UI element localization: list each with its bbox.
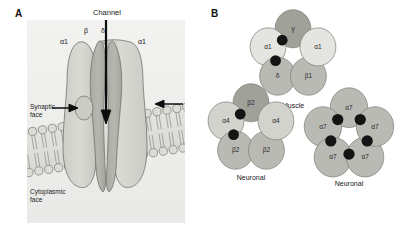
subunit-label: β1	[305, 72, 313, 80]
subunit-label: β2	[232, 146, 240, 154]
pentamer-neuronal-alpha4beta2: β2α4β2β2α4 Neuronal	[205, 84, 297, 176]
binding-site-dot	[270, 55, 281, 66]
pentamer-neuronal-alpha7: α7α7α7α7α7 Neuronal	[301, 88, 397, 184]
pentamer-caption-neuronal-alpha4beta2: Neuronal	[205, 174, 297, 181]
subunit-label-delta: δ	[101, 27, 105, 36]
binding-site-dot	[332, 114, 343, 125]
binding-site-dot	[235, 109, 246, 120]
subunit-label: α1	[264, 43, 272, 50]
binding-site-dot	[325, 135, 336, 146]
panel-a-letter: A	[15, 8, 22, 19]
subunit-label: β2	[247, 99, 255, 107]
subunit-label: α4	[272, 117, 280, 124]
subunit-label: α4	[222, 117, 230, 124]
panel-b-subunit-arrangements: γα1δβ1α1 Muscle β2α4β2β2α4 Neuronal α7α7…	[203, 6, 409, 228]
subunit-label: δ	[276, 72, 280, 79]
subunit-label: β2	[263, 146, 271, 154]
synaptic-face-label: Synaptic face	[30, 103, 55, 119]
subunit-neuronal-a4b2-4: α4	[258, 102, 294, 140]
cytoplasmic-face-label: Cytoplasmic face	[30, 188, 65, 204]
subunit-label: α7	[361, 153, 369, 160]
binding-site-dot	[362, 135, 373, 146]
channel-label: Channel	[77, 8, 137, 17]
subunit-label-alpha1-left: α1	[60, 38, 68, 47]
panel-a-receptor-cross-section: Channel β δ α1 α1 Synaptic face Cytoplas…	[27, 20, 185, 223]
binding-site-dot	[355, 114, 366, 125]
pentamer-caption-neuronal-alpha7: Neuronal	[301, 180, 397, 187]
subunit-label: α7	[319, 123, 327, 130]
binding-site-dot	[343, 149, 354, 160]
binding-site-dot	[228, 129, 239, 140]
subunit-label: α7	[345, 104, 353, 111]
subunit-label-alpha1-right: α1	[138, 38, 146, 47]
subunit-label-beta: β	[84, 27, 88, 36]
subunit-label: α7	[329, 153, 337, 160]
binding-site-dot	[277, 35, 288, 46]
figure-root: A	[0, 0, 409, 231]
subunit-label: α1	[314, 43, 322, 50]
subunit-label: α7	[371, 123, 379, 130]
subunit-muscle-4: α1	[300, 28, 336, 66]
